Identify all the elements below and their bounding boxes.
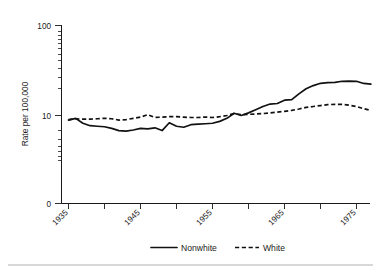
chart-figure: 100 10 0 Rate per 100,000 1935 1945 1955… [0, 0, 381, 273]
y-tick-label-10: 10 [42, 112, 52, 121]
y-tick-label-0: 0 [46, 200, 51, 209]
legend-label-nonwhite: Nonwhite [181, 243, 217, 253]
y-axis-title: Rate per 100,000 [20, 81, 30, 146]
line-chart: 100 10 0 Rate per 100,000 1935 1945 1955… [0, 0, 381, 273]
legend-label-white: White [263, 243, 285, 253]
chart-background [0, 0, 381, 273]
y-tick-label-100: 100 [37, 22, 51, 31]
